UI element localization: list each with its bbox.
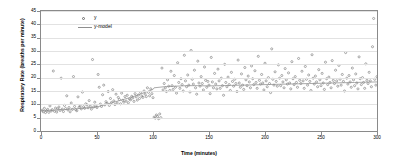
y-tick-label: 30 bbox=[14, 49, 36, 54]
y-tick-label: 35 bbox=[14, 35, 36, 40]
chart-legend: y y-model bbox=[78, 14, 148, 34]
x-tick-label: 300 bbox=[362, 136, 392, 141]
y-tick-mark bbox=[37, 91, 40, 92]
y-tick-label: 45 bbox=[14, 9, 36, 14]
y-tick-mark bbox=[37, 24, 40, 25]
y-tick-label: 15 bbox=[14, 89, 36, 94]
y-tick-label: 5 bbox=[14, 115, 36, 120]
y-tick-mark bbox=[37, 11, 40, 12]
y-tick-mark bbox=[37, 118, 40, 119]
x-tick-label: 200 bbox=[250, 136, 280, 141]
y-tick-mark bbox=[37, 51, 40, 52]
y-tick-mark bbox=[37, 38, 40, 39]
y-tick-mark bbox=[37, 131, 40, 132]
y-tick-mark bbox=[37, 64, 40, 65]
gridline bbox=[41, 118, 377, 119]
gridline bbox=[41, 11, 377, 12]
gridline bbox=[41, 38, 377, 39]
x-tick-label: 0 bbox=[26, 136, 56, 141]
x-tick-label: 150 bbox=[194, 136, 224, 141]
x-tick-label: 100 bbox=[138, 136, 168, 141]
y-tick-label: 20 bbox=[14, 75, 36, 80]
scatter-marker-icon bbox=[82, 17, 85, 20]
legend-label: y bbox=[94, 14, 97, 20]
y-tick-label: 40 bbox=[14, 22, 36, 27]
line-marker-icon bbox=[78, 27, 92, 28]
respiratory-rate-scatter-chart: Respiratory Rate (breaths per minute) Ti… bbox=[0, 0, 398, 162]
gridline bbox=[41, 51, 377, 52]
gridline bbox=[41, 91, 377, 92]
x-tick-label: 50 bbox=[82, 136, 112, 141]
x-axis-title: Time (minutes) bbox=[0, 150, 398, 156]
y-tick-label: 0 bbox=[14, 129, 36, 134]
y-tick-label: 25 bbox=[14, 62, 36, 67]
legend-item-y-model: y-model bbox=[78, 23, 148, 32]
x-tick-label: 250 bbox=[306, 136, 336, 141]
y-tick-mark bbox=[37, 104, 40, 105]
legend-item-y: y bbox=[78, 14, 148, 23]
gridline bbox=[41, 104, 377, 105]
y-tick-mark bbox=[37, 78, 40, 79]
y-tick-label: 10 bbox=[14, 102, 36, 107]
gridline bbox=[41, 64, 377, 65]
gridline bbox=[41, 78, 377, 79]
legend-label: y-model bbox=[94, 23, 112, 29]
